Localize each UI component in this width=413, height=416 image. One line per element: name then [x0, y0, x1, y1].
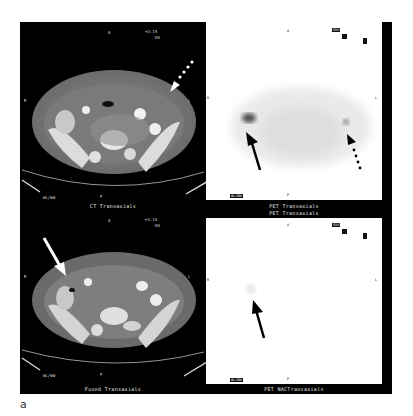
- fused-pelvis-image: [20, 210, 206, 384]
- corner-info-1: +2.19: [145, 29, 157, 34]
- orientation-right: R: [24, 98, 26, 103]
- figure-letter: a: [20, 398, 27, 411]
- orientation-right: R: [206, 278, 210, 282]
- orientation-posterior: P: [100, 194, 102, 199]
- solid-arrow-black: [252, 300, 264, 338]
- panel-caption: PET Transaxials: [206, 203, 382, 210]
- orientation-posterior: P: [286, 377, 290, 381]
- window-level-label: WL/WW: [43, 195, 55, 200]
- window-level-label: WL/WW: [43, 373, 55, 378]
- ct-transaxial-panel: A +2.19 HU R L WL/WW P CT Transaxials: [20, 22, 206, 210]
- panel-caption: CT Transaxials: [20, 203, 206, 210]
- corner-marker: [363, 38, 367, 44]
- orientation-posterior: P: [286, 193, 290, 197]
- ct-pelvis-image: [20, 22, 206, 200]
- panel-caption: PET NACTransaxials: [206, 386, 382, 393]
- orientation-anterior: A: [108, 218, 110, 223]
- orientation-posterior: P: [100, 372, 102, 377]
- corner-info-1: SUV: [332, 28, 340, 32]
- pet-nac-uptake-image: [206, 218, 382, 384]
- pet-uptake-image: [206, 22, 382, 200]
- corner-info-2: HU: [155, 35, 160, 40]
- orientation-right: R: [24, 274, 26, 279]
- window-level-label: WL/WW: [230, 194, 243, 198]
- orientation-left: L: [188, 274, 190, 279]
- orientation-left: L: [374, 278, 378, 282]
- corner-info-2: HU: [155, 223, 160, 228]
- above-caption-repeat: PET Transaxials: [206, 210, 382, 217]
- corner-info-2: [342, 34, 347, 39]
- orientation-anterior: A: [286, 29, 290, 33]
- fused-transaxial-panel: A +2.19 HU R L WL/WW P Fused Transaxials: [20, 210, 206, 394]
- pet-nac-transaxial-panel: A SUV R L WL/WW P PET Transaxials PET NA…: [206, 210, 392, 394]
- orientation-left: L: [374, 96, 378, 100]
- panel-caption: Fused Transaxials: [20, 386, 206, 393]
- orientation-right: R: [206, 96, 210, 100]
- corner-info-2: [342, 229, 347, 234]
- orientation-left: L: [188, 98, 190, 103]
- pet-transaxial-panel: A SUV R L WL/WW P PET Transaxials: [206, 22, 392, 210]
- dotted-arrow-white: [170, 60, 194, 92]
- orientation-anterior: A: [108, 30, 110, 35]
- corner-info-1: +2.19: [145, 217, 157, 222]
- corner-marker: [363, 233, 367, 239]
- orientation-anterior: A: [286, 223, 290, 227]
- figure-grid: A +2.19 HU R L WL/WW P CT Transaxials: [20, 22, 392, 394]
- corner-info-1: SUV: [332, 223, 340, 227]
- window-level-label: WL/WW: [230, 378, 243, 382]
